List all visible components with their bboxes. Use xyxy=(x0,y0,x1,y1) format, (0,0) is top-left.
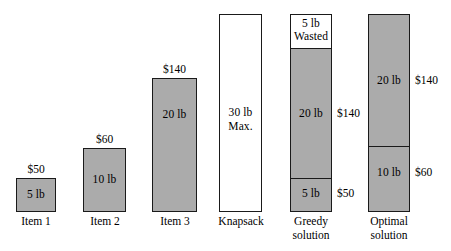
optimal-top-value-label: $140 xyxy=(415,74,451,87)
optimal-bottom-weight-label: 10 lb xyxy=(369,166,409,179)
knapsack-diagram: $50 5 lb Item 1 $60 10 lb Item 2 $140 20… xyxy=(0,0,451,251)
greedy-caption-line2: solution xyxy=(281,229,341,243)
greedy-bottom-weight-label: 5 lb xyxy=(291,187,331,200)
optimal-segment-divider xyxy=(369,146,409,147)
optimal-bottom-value-label: $60 xyxy=(415,166,451,179)
greedy-wasted-note-label: Wasted xyxy=(287,30,335,43)
item3-bar xyxy=(152,78,197,212)
knapsack-capacity-max: Max. xyxy=(219,120,262,133)
item3-caption: Item 3 xyxy=(143,215,207,229)
optimal-caption-line2: solution xyxy=(358,229,420,243)
item2-weight-label: 10 lb xyxy=(83,173,126,186)
item2-caption: Item 2 xyxy=(74,215,136,229)
greedy-wasted-divider xyxy=(291,48,331,49)
knapsack-capacity-weight: 30 lb xyxy=(219,106,262,119)
greedy-caption-line1: Greedy xyxy=(281,215,341,229)
item2-value-label: $60 xyxy=(83,133,126,146)
item1-value-label: $50 xyxy=(16,163,56,176)
item1-caption: Item 1 xyxy=(6,215,66,229)
greedy-wasted-weight-label: 5 lb xyxy=(291,17,331,30)
optimal-caption-line1: Optimal xyxy=(358,215,420,229)
item1-weight-label: 5 lb xyxy=(16,188,56,201)
item3-weight-label: 20 lb xyxy=(152,108,197,121)
greedy-top-weight-label: 20 lb xyxy=(291,107,331,120)
knapsack-caption: Knapsack xyxy=(206,215,276,229)
optimal-bar xyxy=(368,14,410,212)
optimal-top-weight-label: 20 lb xyxy=(369,74,409,87)
greedy-segment-divider xyxy=(291,178,331,179)
item3-value-label: $140 xyxy=(152,63,197,76)
